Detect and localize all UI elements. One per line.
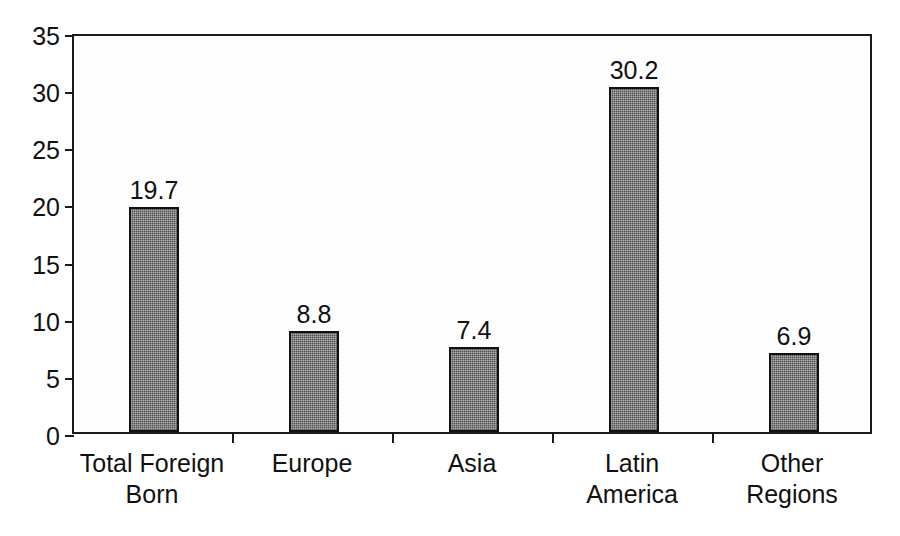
x-axis-category-latin-america: Latin America bbox=[552, 448, 712, 510]
x-axis-tick-2 bbox=[392, 432, 394, 443]
y-tick-mark bbox=[65, 264, 74, 266]
x-axis-tick-3 bbox=[552, 432, 554, 443]
x-axis-tick-1 bbox=[232, 432, 234, 443]
x-axis-category-other-regions: Other Regions bbox=[712, 448, 872, 510]
y-axis-label-30: 30 bbox=[32, 78, 60, 108]
bar-value-label: 6.9 bbox=[777, 322, 812, 350]
y-axis-label-25: 25 bbox=[32, 135, 60, 165]
y-tick-mark bbox=[65, 435, 74, 437]
x-axis-tick-4 bbox=[712, 432, 714, 443]
y-tick-mark bbox=[65, 206, 74, 208]
y-axis-label-10: 10 bbox=[32, 307, 60, 337]
y-tick-mark bbox=[65, 149, 74, 151]
bar-europe: 8.8 bbox=[289, 331, 339, 432]
y-tick-mark bbox=[65, 35, 74, 37]
x-axis-category-europe: Europe bbox=[232, 448, 392, 479]
y-axis-label-35: 35 bbox=[32, 21, 60, 51]
bar-value-label: 7.4 bbox=[457, 316, 492, 344]
y-axis-label-0: 0 bbox=[46, 421, 60, 451]
x-axis-category-total-foreign-born: Total Foreign Born bbox=[72, 448, 232, 510]
bar-other-regions: 6.9 bbox=[769, 353, 819, 432]
y-tick-mark bbox=[65, 378, 74, 380]
bar-asia: 7.4 bbox=[449, 347, 499, 432]
bar-value-label: 8.8 bbox=[297, 300, 332, 328]
bar-value-label: 30.2 bbox=[610, 56, 659, 84]
y-axis-label-15: 15 bbox=[32, 250, 60, 280]
bar-chart: 0 5 10 15 20 25 30 35 bbox=[0, 0, 900, 536]
y-axis-label-20: 20 bbox=[32, 192, 60, 222]
plot-area: 0 5 10 15 20 25 30 35 bbox=[72, 34, 872, 434]
x-axis-category-asia: Asia bbox=[392, 448, 552, 479]
y-tick-mark bbox=[65, 92, 74, 94]
bar-value-label: 19.7 bbox=[130, 176, 179, 204]
y-tick-mark bbox=[65, 321, 74, 323]
bar-latin-america: 30.2 bbox=[609, 87, 659, 432]
bar-total-foreign-born: 19.7 bbox=[129, 207, 179, 432]
y-axis-label-5: 5 bbox=[46, 364, 60, 394]
